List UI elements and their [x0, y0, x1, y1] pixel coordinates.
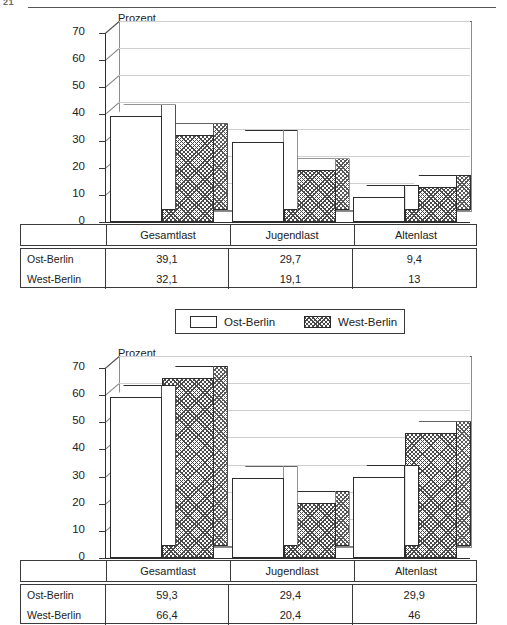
table-cell: 59,3 [106, 585, 229, 605]
axis-depth-connector [105, 383, 120, 396]
y-axis-label: 50 [59, 414, 85, 426]
gridline [119, 75, 470, 76]
table-cell: 66,4 [106, 605, 229, 625]
table-row: Ost-Berlin39,129,79,4 [21, 249, 476, 269]
category-separator [106, 561, 107, 581]
bar-ost-berlin-altenlast [353, 197, 405, 222]
category-separator [354, 225, 355, 245]
y-axis-label: 60 [59, 52, 85, 64]
table-cell: 46 [353, 605, 476, 625]
y-axis-label: 70 [59, 360, 85, 372]
figure-1: Prozent010203040506070 GesamtlastJugendl… [0, 0, 507, 300]
category-label-jugendlast: Jugendlast [230, 225, 354, 245]
category-separator [230, 561, 231, 581]
y-axis-label: 10 [59, 187, 85, 199]
table-cell: 9,4 [353, 249, 476, 269]
category-label-altenlast: Altenlast [354, 225, 478, 245]
gridline [119, 356, 470, 357]
axis-depth-connector [105, 75, 120, 88]
category-separator [230, 225, 231, 245]
chart-1-y-axis [105, 33, 106, 222]
table-row-label: West-Berlin [21, 605, 106, 625]
y-axis-label: 50 [59, 79, 85, 91]
gridline [119, 21, 470, 22]
y-axis-label: 70 [59, 25, 85, 37]
figure-2: Prozent010203040506070 GesamtlastJugendl… [0, 345, 507, 617]
chart-1-x-axis [105, 222, 470, 223]
chart-2-category-strip: GesamtlastJugendlastAltenlast [20, 560, 477, 582]
table-cell: 20,4 [229, 605, 352, 625]
legend-label: West-Berlin [338, 316, 397, 328]
chart-1-category-strip: GesamtlastJugendlastAltenlast [20, 224, 477, 246]
legend-item-west-berlin: West-Berlin [304, 316, 397, 328]
table-row: West-Berlin66,420,446 [21, 605, 476, 625]
y-axis-label: 40 [59, 106, 85, 118]
y-axis-label: 40 [59, 441, 85, 453]
category-label-gesamtlast: Gesamtlast [106, 225, 230, 245]
table-cell: 39,1 [106, 249, 229, 269]
wall-top-depth-edge [105, 356, 120, 369]
y-axis-label: 20 [59, 160, 85, 172]
bar-face [353, 477, 405, 558]
bar-ost-berlin-gesamtlast [110, 397, 162, 558]
y-axis-label: 30 [59, 133, 85, 145]
table-cell: 32,1 [106, 269, 229, 289]
bar-ost-berlin-gesamtlast [110, 116, 162, 222]
category-label-jugendlast: Jugendlast [230, 561, 354, 581]
axis-depth-connector [105, 48, 120, 61]
table-row-label: Ost-Berlin [21, 249, 106, 269]
table-cell: 13 [353, 269, 476, 289]
table-row-label: West-Berlin [21, 269, 106, 289]
chart-2-data-table: Ost-Berlin59,329,429,9West-Berlin66,420,… [20, 584, 477, 624]
table-row-label: Ost-Berlin [21, 585, 106, 605]
table-cell: 29,4 [229, 585, 352, 605]
table-row: Ost-Berlin59,329,429,9 [21, 585, 476, 605]
bar-face [232, 142, 284, 222]
gridline [119, 102, 470, 103]
category-label-altenlast: Altenlast [354, 561, 478, 581]
table-row: West-Berlin32,119,113 [21, 269, 476, 289]
bar-face [232, 478, 284, 558]
y-axis-label: 30 [59, 469, 85, 481]
legend-swatch-west-berlin [304, 316, 331, 328]
category-separator [106, 225, 107, 245]
legend-label: Ost-Berlin [224, 316, 275, 328]
gridline [119, 48, 470, 49]
wall-top-depth-edge [105, 21, 120, 34]
y-axis-label: 10 [59, 523, 85, 535]
table-cell: 19,1 [229, 269, 352, 289]
legend-swatch-ost-berlin [190, 316, 217, 328]
y-axis-label: 20 [59, 496, 85, 508]
chart-2-x-axis [105, 558, 470, 559]
category-label-gesamtlast: Gesamtlast [106, 561, 230, 581]
table-cell: 29,9 [353, 585, 476, 605]
category-separator [354, 561, 355, 581]
y-axis-label: 60 [59, 387, 85, 399]
chart-legend: Ost-BerlinWest-Berlin [175, 309, 405, 334]
legend-item-ost-berlin: Ost-Berlin [190, 316, 275, 328]
bar-face [353, 197, 405, 222]
chart-2-y-axis [105, 368, 106, 558]
chart-1-data-table: Ost-Berlin39,129,79,4West-Berlin32,119,1… [20, 248, 477, 288]
axis-depth-connector [105, 102, 120, 115]
bar-ost-berlin-altenlast [353, 477, 405, 558]
table-cell: 29,7 [229, 249, 352, 269]
bar-face [110, 397, 162, 558]
bar-ost-berlin-jugendlast [232, 478, 284, 558]
bar-face [110, 116, 162, 222]
bar-ost-berlin-jugendlast [232, 142, 284, 222]
